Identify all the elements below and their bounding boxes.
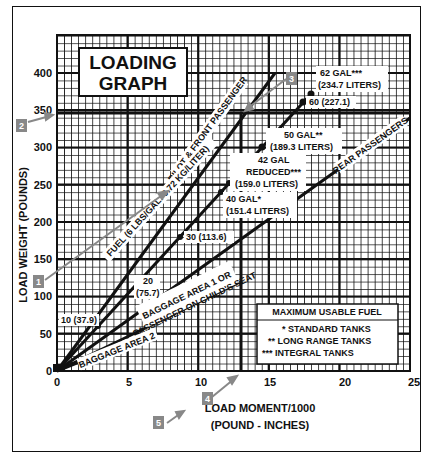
chart-title-line1: LOADING [89,52,177,73]
x-tick-5: 5 [126,376,132,388]
callout-2-number: 2 [19,121,24,131]
y-tick-100: 100 [34,290,52,302]
fuel-label-40: 40 GAL* [226,194,262,204]
fuel-label-62: 62 GAL*** [320,68,363,78]
y-tick-0: 0 [46,365,52,377]
fuel-label-60: 60 (227.1) [309,97,350,107]
fuel-label-42: 42 GAL [258,155,290,165]
y-tick-300: 300 [34,141,52,153]
callout-4-number: 4 [205,394,210,404]
x-axis-title: LOAD MOMENT/1000 [205,402,316,414]
chart-title-line2: GRAPH [99,73,168,94]
x-tick-10: 10 [195,376,207,388]
fuel-label-40-liters: (151.4 LITERS) [226,206,289,216]
x-tick-0: 0 [54,376,60,388]
legend-title: MAXIMUM USABLE FUEL [272,307,382,317]
y-axis-title: LOAD WEIGHT (POUNDS) [17,167,29,303]
x-tick-25: 25 [408,376,420,388]
y-tick-250: 250 [34,179,52,191]
fuel-label-20-liters: (75.7) [136,288,160,298]
callout-3-number: 3 [289,74,294,84]
fuel-label-20: 20 [143,276,153,286]
legend-item-long-range: ** LONG RANGE TANKS [268,336,371,346]
y-tick-200: 200 [34,216,52,228]
fuel-label-30: 30 (113.6) [186,232,227,242]
x-axis-units: (POUND - INCHES) [211,419,310,431]
y-tick-400: 400 [34,67,52,79]
y-tick-50: 50 [40,328,52,340]
fuel-label-42-reduced: REDUCED*** [246,167,302,177]
legend-item-integral: *** INTEGRAL TANKS [262,348,354,358]
y-tick-150: 150 [34,253,52,265]
x-tick-20: 20 [339,376,351,388]
legend: MAXIMUM USABLE FUEL * STANDARD TANKS ** … [257,304,398,364]
origin-block [53,364,63,372]
fuel-label-62-liters: (234.7 LITERS) [318,80,381,90]
fuel-label-42-liters: (159.0 LITERS) [235,179,298,189]
legend-item-standard: * STANDARD TANKS [282,324,371,334]
callout-1-number: 1 [36,277,41,287]
fuel-label-10: 10 (37.9) [61,315,97,325]
fuel-label-50: 50 GAL** [284,130,323,140]
callout-5-number: 5 [156,418,161,428]
x-tick-15: 15 [264,376,276,388]
loading-graph-chart: LOADING GRAPH PILOT & FRONT PASSENGER FU… [0,0,436,459]
fuel-label-50-liters: (189.3 LITERS) [270,142,333,152]
